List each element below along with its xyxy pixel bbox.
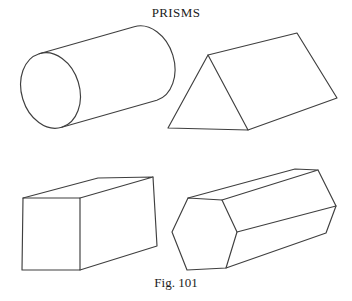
triangular-prism-body-outline xyxy=(208,33,337,130)
rectangular-prism-drawing xyxy=(22,177,157,270)
hexagonal-prism-drawing xyxy=(172,169,336,270)
rectangular-prism-side-face xyxy=(80,177,157,270)
figure-page: PRISMS Fig. 101 xyxy=(0,0,352,301)
hexagonal-prism-front-face xyxy=(172,198,237,270)
rectangular-prism-front-face xyxy=(22,198,80,270)
figure-caption: Fig. 101 xyxy=(0,275,352,291)
rectangular-prism-top-face xyxy=(23,177,153,198)
hexagonal-prism-top-edges xyxy=(188,169,318,200)
triangular-prism-front-face xyxy=(168,55,248,130)
cylinder-drawing xyxy=(12,26,176,136)
cylinder-body-outline xyxy=(39,26,175,127)
prisms-diagram xyxy=(0,0,352,301)
triangular-prism-drawing xyxy=(168,33,337,130)
hexagonal-prism-bottom-edges xyxy=(226,206,336,268)
